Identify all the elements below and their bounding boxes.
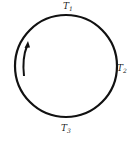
direction-arrow-icon xyxy=(23,41,30,76)
label-top: T1 xyxy=(63,2,73,12)
cycle-diagram-svg xyxy=(0,0,130,143)
label-right-subscript: 2 xyxy=(123,67,127,74)
cycle-circle xyxy=(15,15,117,117)
label-bottom-subscript: 3 xyxy=(67,127,71,134)
cycle-diagram: T1 T2 T3 xyxy=(0,0,130,143)
label-top-subscript: 1 xyxy=(69,5,73,12)
label-right: T2 xyxy=(117,64,127,74)
label-bottom: T3 xyxy=(61,124,71,134)
